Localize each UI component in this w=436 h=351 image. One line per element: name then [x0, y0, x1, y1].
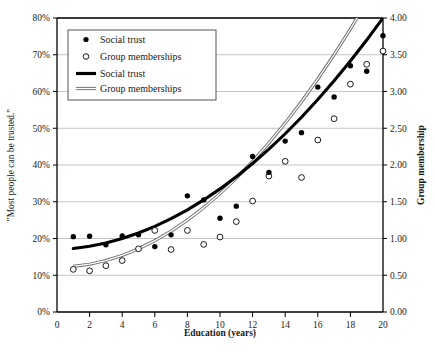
data-point-social-trust	[201, 197, 206, 202]
xtick-label: 6	[152, 320, 157, 330]
data-point-group-memberships	[103, 263, 109, 269]
ytick-label-right: 4.00	[390, 13, 407, 23]
ytick-label-left: 40%	[33, 160, 51, 170]
data-point-social-trust	[250, 154, 255, 159]
data-point-group-memberships	[250, 198, 256, 204]
ytick-label-right: 3.50	[390, 50, 407, 60]
data-point-group-memberships	[233, 219, 239, 225]
y-axis-title-right: Group membership	[416, 125, 426, 205]
legend-marker-open-circle	[83, 54, 89, 60]
ytick-label-right: 1.00	[390, 234, 407, 244]
data-point-group-memberships	[217, 234, 223, 240]
ytick-label-right: 0.50	[390, 271, 407, 281]
xtick-label: 14	[280, 320, 290, 330]
data-point-social-trust	[348, 63, 353, 68]
data-point-group-memberships	[315, 137, 321, 143]
ytick-label-right: 0.00	[390, 307, 407, 317]
xtick-label: 4	[120, 320, 125, 330]
ytick-label-right: 1.50	[390, 197, 407, 207]
data-point-group-memberships	[299, 175, 305, 181]
data-point-group-memberships	[70, 266, 76, 272]
data-point-social-trust	[185, 193, 190, 198]
xtick-label: 2	[87, 320, 92, 330]
data-point-social-trust	[315, 84, 320, 89]
ytick-label-left: 50%	[33, 124, 51, 134]
data-point-social-trust	[217, 216, 222, 221]
xtick-label: 18	[346, 320, 356, 330]
data-point-group-memberships	[201, 241, 207, 247]
chart-figure: 0%10%20%30%40%50%60%70%80%0.000.501.001.…	[0, 0, 436, 351]
data-point-social-trust	[152, 244, 157, 249]
legend-label-social-trust-line: Social trust	[100, 68, 145, 79]
data-point-social-trust	[283, 138, 288, 143]
xtick-label: 20	[378, 320, 388, 330]
ytick-label-left: 60%	[33, 87, 51, 97]
data-point-group-memberships	[87, 268, 93, 274]
legend-marker-filled-circle	[83, 37, 88, 42]
ytick-label-left: 30%	[33, 197, 51, 207]
data-point-group-memberships	[168, 247, 174, 253]
ytick-label-right: 3.00	[390, 87, 407, 97]
data-point-group-memberships	[364, 61, 370, 67]
data-point-social-trust	[380, 33, 385, 38]
data-point-social-trust	[120, 233, 125, 238]
data-point-social-trust	[87, 234, 92, 239]
data-point-group-memberships	[136, 246, 142, 252]
data-point-group-memberships	[331, 116, 337, 122]
ytick-label-left: 10%	[33, 271, 51, 281]
data-point-group-memberships	[119, 258, 125, 264]
data-point-social-trust	[331, 94, 336, 99]
data-point-group-memberships	[282, 158, 288, 164]
ytick-label-left: 20%	[33, 234, 51, 244]
data-point-group-memberships	[185, 228, 191, 234]
legend-label-social-trust-marker: Social trust	[100, 34, 145, 45]
data-point-group-memberships	[348, 81, 354, 87]
data-point-group-memberships	[380, 48, 386, 54]
ytick-label-left: 70%	[33, 50, 51, 60]
ytick-label-right: 2.50	[390, 124, 407, 134]
ytick-label-right: 2.00	[390, 160, 407, 170]
ytick-label-left: 0%	[37, 307, 50, 317]
data-point-social-trust	[266, 170, 271, 175]
xtick-label: 16	[313, 320, 323, 330]
ytick-label-left: 80%	[33, 13, 51, 23]
y-axis-title-left: "Most people can be trusted."	[6, 109, 16, 222]
data-point-social-trust	[136, 232, 141, 237]
data-point-social-trust	[234, 203, 239, 208]
data-point-social-trust	[364, 69, 369, 74]
x-axis-title: Education (years)	[184, 328, 256, 339]
data-point-social-trust	[103, 242, 108, 247]
data-point-social-trust	[71, 234, 76, 239]
data-point-social-trust	[299, 130, 304, 135]
legend-label-group-memberships-marker: Group memberships	[100, 51, 181, 62]
data-point-group-memberships	[152, 228, 158, 234]
legend-label-group-memberships-line: Group memberships	[100, 83, 181, 94]
xtick-label: 0	[55, 320, 60, 330]
data-point-social-trust	[168, 232, 173, 237]
